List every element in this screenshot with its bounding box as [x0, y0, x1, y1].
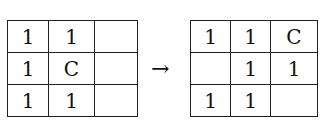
grid-row: 1 1	[8, 21, 138, 53]
grid-cell: 1	[271, 53, 318, 85]
grid-cell	[95, 53, 138, 85]
grid-cell: C	[271, 21, 318, 53]
grid-row: 1 1	[8, 85, 138, 117]
grid-cell: 1	[8, 85, 49, 117]
grid-cell	[95, 21, 138, 53]
grid-cell: 1	[8, 53, 49, 85]
grid-cell: C	[49, 53, 95, 85]
grid-cell	[271, 85, 318, 117]
right-arrow-icon: →	[151, 56, 169, 81]
grid-cell: 1	[191, 21, 231, 53]
grid-cell: 1	[49, 21, 95, 53]
grid-row: 1 1	[191, 85, 318, 117]
grid-cell: 1	[191, 85, 231, 117]
grid-cell: 1	[231, 21, 271, 53]
grid-row: 1 C	[8, 53, 138, 85]
after-grid: 1 1 C 1 1 1 1	[190, 20, 318, 117]
grid-row: 1 1 C	[191, 21, 318, 53]
grid-row: 1 1	[191, 53, 318, 85]
grid-cell	[191, 53, 231, 85]
grid-cell: 1	[49, 85, 95, 117]
grid-cell	[95, 85, 138, 117]
before-grid: 1 1 1 C 1 1	[7, 20, 138, 117]
grid-cell: 1	[231, 53, 271, 85]
grid-cell: 1	[8, 21, 49, 53]
grid-cell: 1	[231, 85, 271, 117]
